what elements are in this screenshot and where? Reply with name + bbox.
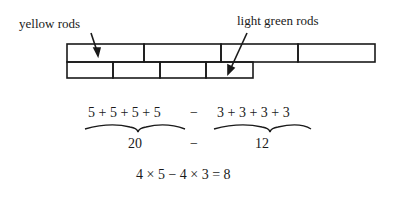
yellow-rod (298, 44, 375, 62)
left-total: 20 (128, 136, 142, 152)
light-green-rod (160, 62, 206, 78)
light-green-rods-row (67, 62, 253, 78)
yellow-rod (144, 44, 221, 62)
left-underbrace (85, 125, 185, 132)
minus-sign-top: − (190, 105, 198, 121)
yellow-rod (67, 44, 144, 62)
minus-sign-middle: − (190, 136, 198, 152)
right-sum: 3 + 3 + 3 + 3 (217, 105, 290, 121)
final-equation: 4 × 5 − 4 × 3 = 8 (136, 167, 231, 183)
green-arrow-icon (228, 33, 247, 74)
light-green-rod (113, 62, 160, 78)
right-underbrace (214, 125, 311, 132)
right-total: 12 (255, 136, 269, 152)
light-green-rod (67, 62, 113, 78)
yellow-rods-row (67, 44, 375, 62)
left-sum: 5 + 5 + 5 + 5 (88, 105, 161, 121)
yellow-rod (221, 44, 298, 62)
